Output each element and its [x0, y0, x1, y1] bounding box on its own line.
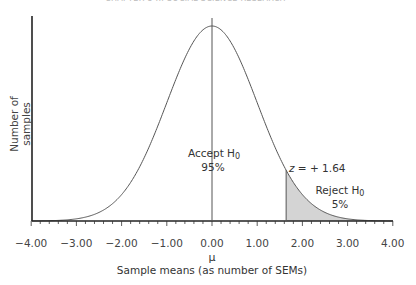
mu-label: μ — [202, 251, 222, 264]
x-tick-label: 0.00 — [192, 237, 232, 249]
x-tick-label: −4.00 — [11, 237, 51, 249]
x-tick-label: −1.00 — [147, 237, 187, 249]
x-tick-label: 4.00 — [373, 237, 413, 249]
x-tick-label: 3.00 — [328, 237, 368, 249]
x-tick-label: −3.00 — [56, 237, 96, 249]
accept-subscript: 0 — [235, 152, 240, 161]
reject-annotation: Reject H0 5% — [315, 184, 365, 210]
x-tick-label: 2.00 — [282, 237, 322, 249]
reject-subscript: 0 — [359, 189, 364, 198]
x-tick-label: −2.00 — [102, 237, 142, 249]
reject-percent: 5% — [332, 198, 349, 210]
accept-percent: 95% — [201, 161, 224, 173]
x-axis-label: Sample means (as number of SEMs) — [62, 264, 362, 276]
x-tick-label: 1.00 — [237, 237, 277, 249]
x-axis-ticks — [31, 221, 393, 226]
reject-label: Reject H — [316, 184, 360, 196]
accept-annotation: Accept H0 95% — [188, 147, 238, 173]
y-axis-label: Number of samples — [8, 74, 32, 174]
z-value: = + 1.64 — [295, 162, 346, 174]
z-annotation: z = + 1.64 — [289, 162, 346, 174]
accept-label: Accept H — [188, 147, 235, 159]
